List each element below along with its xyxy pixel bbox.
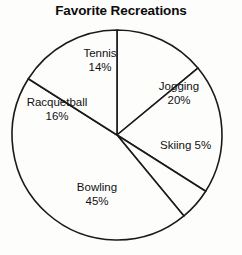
slice-label-racquetball-value: 16%	[11, 110, 103, 124]
slice-label-skiing-name: Skiing	[160, 139, 191, 151]
slice-label-skiing: Skiing 5%	[160, 139, 234, 153]
slice-label-bowling-name: Bowling	[54, 181, 140, 195]
slice-label-bowling-value: 45%	[54, 195, 140, 209]
slice-label-jogging-name: Jogging	[143, 80, 215, 94]
slice-label-tennis-value: 14%	[67, 61, 133, 75]
pie-chart: Favorite Recreations Tennis 14% Jogging …	[0, 0, 242, 255]
slice-label-tennis: Tennis 14%	[67, 47, 133, 74]
slice-label-racquetball: Racquetball 16%	[11, 96, 103, 123]
slice-label-jogging-value: 20%	[143, 94, 215, 108]
slice-label-jogging: Jogging 20%	[143, 80, 215, 107]
slice-label-bowling: Bowling 45%	[54, 181, 140, 208]
pie-graphic	[0, 0, 242, 255]
slice-label-skiing-value: 5%	[195, 139, 212, 151]
slice-label-racquetball-name: Racquetball	[11, 96, 103, 110]
slice-label-tennis-name: Tennis	[67, 47, 133, 61]
